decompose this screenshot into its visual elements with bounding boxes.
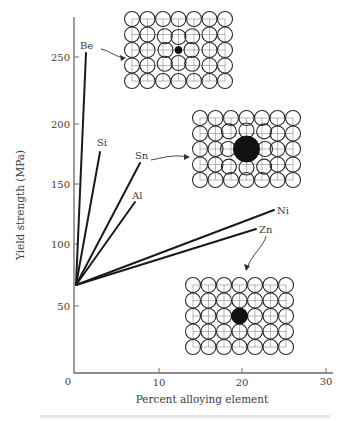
x-tick-label-10: 10 <box>153 377 166 388</box>
line-ni <box>76 210 274 285</box>
atom <box>257 124 272 139</box>
atom <box>157 29 172 44</box>
label-si: Si <box>97 137 107 148</box>
x-tick-label-0: 0 <box>65 376 71 387</box>
lattice-inset-small-solute <box>125 12 233 89</box>
solute-atom <box>234 136 260 162</box>
atom <box>185 56 200 71</box>
arrow-zn-to-lattice <box>247 236 266 268</box>
arrow-sn-to-lattice <box>151 156 187 160</box>
line-al <box>76 202 135 285</box>
atom <box>221 159 236 174</box>
line-be <box>76 53 86 285</box>
y-axis-title: Yield strength (MPa) <box>14 150 26 261</box>
y-tick-label-100: 100 <box>51 239 70 250</box>
lattice-inset-large-solute <box>193 111 301 188</box>
solute-atom <box>175 47 182 54</box>
x-tick-label-30: 30 <box>320 376 333 387</box>
atom <box>185 29 200 44</box>
atom <box>257 159 272 174</box>
line-zn <box>76 229 256 285</box>
y-tick-label-250: 250 <box>51 52 70 63</box>
y-tick-label-200: 200 <box>51 119 70 130</box>
line-sn <box>76 163 140 285</box>
x-tick-label-20: 20 <box>236 377 249 388</box>
label-ni: Ni <box>277 205 289 216</box>
x-ticks <box>159 368 326 373</box>
caption-remnant <box>40 415 330 418</box>
label-zn: Zn <box>259 224 273 235</box>
lattice-inset-same-size-solute <box>186 278 294 355</box>
atom <box>221 124 236 139</box>
y-tick-label-50: 50 <box>57 301 70 312</box>
atom <box>157 56 172 71</box>
label-be: Be <box>80 40 93 51</box>
x-axis-title: Percent alloying element <box>136 393 269 405</box>
label-sn: Sn <box>135 150 149 161</box>
label-al: Al <box>131 190 142 201</box>
yield-strength-chart: 50 100 150 200 250 0 10 20 30 Percent al… <box>0 0 353 421</box>
solute-atom <box>232 308 248 324</box>
y-tick-label-150: 150 <box>51 179 70 190</box>
